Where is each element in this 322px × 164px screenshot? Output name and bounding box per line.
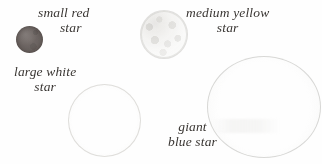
medium-yellow-star-disc [141,11,187,58]
large-white-star-disc [68,84,141,157]
giant-blue-star-disc [207,56,321,158]
star-size-comparison-figure: small red star medium yellow star large … [0,0,322,164]
large-white-star-label-line1: large white [14,64,76,79]
small-red-star-label: small red star [38,5,89,35]
medium-yellow-star-label-line2: star [186,20,269,35]
medium-yellow-star-label-line1: medium yellow [186,5,269,20]
giant-blue-star-label: giant blue star [168,119,217,149]
giant-blue-star-label-line2: blue star [168,134,217,149]
small-red-star-label-line2: star [52,20,89,35]
medium-yellow-star-label: medium yellow star [186,5,269,35]
large-white-star-label: large white star [14,64,76,94]
giant-blue-star-label-line1: giant [168,119,217,134]
large-white-star-label-line2: star [14,79,76,94]
small-red-star-label-line1: small red [38,5,89,20]
